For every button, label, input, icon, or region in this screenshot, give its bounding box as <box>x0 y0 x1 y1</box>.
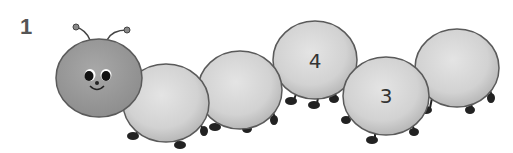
antenna-left <box>73 24 90 40</box>
body-segment-2 <box>198 51 282 132</box>
body-segment-4: 3 <box>342 57 429 143</box>
antenna-right <box>107 27 130 40</box>
caterpillar-illustration: 4 3 <box>0 0 513 153</box>
segment-number-4: 4 <box>309 49 322 73</box>
caterpillar-head <box>56 24 142 117</box>
segment-number-3: 3 <box>380 84 393 108</box>
nose <box>95 81 99 85</box>
